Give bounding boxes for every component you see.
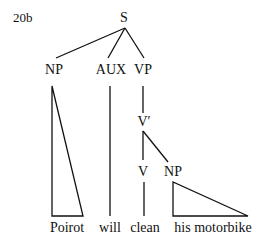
node-v: V [138, 165, 148, 179]
leaf-poirot: Poirot [50, 221, 84, 235]
leaf-will: will [99, 221, 121, 235]
node-v-bar: V′ [137, 115, 150, 129]
node-s: S [120, 11, 128, 25]
node-np-object: NP [164, 165, 182, 179]
branch-s-vp [125, 28, 144, 58]
branch-s-np [56, 28, 125, 58]
branch-s-aux [108, 28, 125, 58]
node-vp: VP [134, 63, 152, 77]
branch-vbar-np [143, 131, 168, 162]
leaf-his-motorbike: his motorbike [174, 221, 251, 235]
node-np-subject: NP [45, 63, 63, 77]
syntax-tree-diagram: 20b S NP AUX VP V′ V NP Poirot will clea… [0, 0, 267, 244]
triangle-np-object [173, 182, 248, 216]
node-aux: AUX [96, 63, 126, 77]
leaf-clean: clean [130, 221, 160, 235]
example-number: 20b [13, 11, 33, 24]
tree-branches [0, 0, 267, 244]
triangle-np-subject [52, 86, 83, 216]
